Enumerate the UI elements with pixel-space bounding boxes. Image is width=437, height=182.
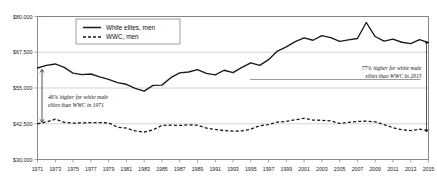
x-axis-tick-label: 1981 xyxy=(121,166,133,172)
x-axis-tick-label: 2003 xyxy=(316,166,328,172)
x-axis-tick-label: 2007 xyxy=(352,166,364,172)
chart-legend: White elites, men WWC, men xyxy=(76,19,180,44)
y-axis-tick-label: $55,000 xyxy=(13,85,33,91)
annotation-2015-line2: elites than WWC in 2015 xyxy=(366,73,422,79)
y-axis-tick-label: $67,500 xyxy=(13,49,33,55)
x-axis-tick-label: 1997 xyxy=(263,166,275,172)
line-chart: $30,000$42,500$55,000$67,500$80,000 1971… xyxy=(0,0,437,182)
chart-container: $30,000$42,500$55,000$67,500$80,000 1971… xyxy=(0,0,437,182)
x-axis-tick-labels: 1971197319751977197919811983198519871989… xyxy=(32,166,435,172)
x-axis-tick-label: 1985 xyxy=(156,166,168,172)
x-axis-tick-label: 1979 xyxy=(103,166,115,172)
y-axis-tick-label: $30,000 xyxy=(13,157,33,163)
annotation-2015-top-dot xyxy=(425,41,428,44)
x-axis-tick-label: 2001 xyxy=(298,166,310,172)
x-axis-tick-label: 2005 xyxy=(334,166,346,172)
y-axis-tick-label: $42,500 xyxy=(13,121,33,127)
x-axis-tick-label: 1977 xyxy=(85,166,97,172)
series-line-wwc-men xyxy=(38,118,429,132)
x-axis-ticks xyxy=(38,160,429,163)
annotation-1971-arrow xyxy=(40,69,44,122)
x-axis-tick-label: 1987 xyxy=(174,166,186,172)
y-axis-ticks xyxy=(35,17,38,160)
x-axis-tick-label: 1991 xyxy=(209,166,221,172)
legend-label-wwc-men: WWC, men xyxy=(106,33,139,40)
x-axis-tick-label: 1989 xyxy=(192,166,204,172)
x-axis-tick-label: 1971 xyxy=(32,166,44,172)
y-axis-tick-labels: $30,000$42,500$55,000$67,500$80,000 xyxy=(13,14,33,163)
x-axis-tick-label: 1999 xyxy=(281,166,293,172)
x-axis-tick-label: 1993 xyxy=(227,166,239,172)
x-axis-tick-label: 1975 xyxy=(67,166,79,172)
x-axis-tick-label: 2009 xyxy=(369,166,381,172)
x-axis-tick-label: 2015 xyxy=(423,166,435,172)
annotation-1971: 46% higher for white male elites than WW… xyxy=(40,69,108,122)
annotation-2015-line1: 77% higher for white male xyxy=(362,65,422,71)
x-axis-tick-label: 1973 xyxy=(49,166,61,172)
annotation-2015: 77% higher for white male elites than WW… xyxy=(250,41,428,132)
annotation-2015-bottom-dot xyxy=(425,129,428,132)
x-axis-tick-label: 2013 xyxy=(405,166,417,172)
x-axis-tick-label: 2011 xyxy=(387,166,398,172)
y-axis-tick-label: $80,000 xyxy=(13,14,33,20)
x-axis-tick-label: 1983 xyxy=(138,166,150,172)
x-axis-tick-label: 1995 xyxy=(245,166,257,172)
legend-label-white-elites-men: White elites, men xyxy=(106,24,155,31)
annotation-1971-line1: 46% higher for white male xyxy=(48,94,108,100)
annotation-1971-line2: elites than WWC in 1971 xyxy=(48,102,104,108)
